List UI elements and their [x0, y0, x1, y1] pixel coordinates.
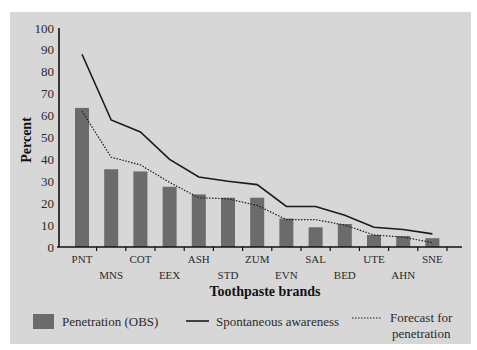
legend-swatch-penetration — [33, 314, 54, 329]
bar-sne — [425, 238, 439, 247]
bar-ute — [367, 235, 381, 247]
bar-cot — [133, 171, 147, 247]
bar-std — [221, 198, 235, 247]
bar-mns — [104, 169, 118, 247]
bars-group — [75, 108, 439, 247]
x-tick-label-bed: BED — [334, 269, 356, 281]
x-tick-label-cot: COT — [129, 253, 151, 265]
x-tick-label-std: STD — [218, 269, 239, 281]
legend-label-penetration: Penetration (OBS) — [62, 314, 158, 329]
x-tick-label-eex: EEX — [159, 269, 180, 281]
bar-bed — [338, 224, 352, 247]
y-tick-labels: 0102030405060708090100 — [35, 21, 55, 255]
bar-evn — [279, 219, 293, 247]
y-tick-label: 70 — [41, 86, 54, 101]
x-tick-label-evn: EVN — [275, 269, 298, 281]
y-tick-label: 80 — [41, 64, 54, 79]
x-tick-label-pnt: PNT — [72, 253, 93, 265]
x-tick-label-sne: SNE — [422, 253, 443, 265]
x-tick-label-zum: ZUM — [245, 253, 270, 265]
y-axis-title: Percent — [19, 117, 34, 163]
x-tick-label-ahn: AHN — [391, 269, 415, 281]
x-axis-title: Toothpaste brands — [209, 284, 321, 299]
legend-label-forecast: Forecast for — [390, 310, 453, 325]
legend: Penetration (OBS)Spontaneous awarenessFo… — [33, 310, 453, 341]
bar-sal — [309, 227, 323, 247]
x-tick-label-ute: UTE — [363, 253, 385, 265]
y-tick-label: 10 — [41, 218, 54, 233]
y-tick-label: 30 — [41, 174, 54, 189]
y-tick-label: 90 — [41, 42, 54, 57]
y-tick-label: 0 — [48, 240, 55, 255]
x-tick-label-sal: SAL — [305, 253, 326, 265]
bar-pnt — [75, 108, 89, 247]
y-tick-label: 60 — [41, 108, 54, 123]
x-tick-label-mns: MNS — [99, 269, 123, 281]
y-tick-label: 20 — [41, 196, 54, 211]
legend-label-awareness: Spontaneous awareness — [216, 314, 339, 329]
bar-ash — [192, 194, 206, 247]
legend-label-forecast-line2: penetration — [392, 326, 451, 341]
chart: 0102030405060708090100 PNTMNSCOTEEXASHST… — [0, 0, 477, 350]
y-tick-label: 50 — [41, 130, 54, 145]
x-tick-labels: PNTMNSCOTEEXASHSTDZUMEVNSALBEDUTEAHNSNE — [72, 253, 443, 281]
y-tick-label: 40 — [41, 152, 54, 167]
x-tick-label-ash: ASH — [188, 253, 210, 265]
y-tick-label: 100 — [35, 21, 55, 36]
bar-eex — [163, 187, 177, 247]
